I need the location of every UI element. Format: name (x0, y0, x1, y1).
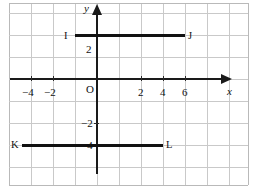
x-tick-label-4: 4 (160, 87, 166, 98)
x-tick--4 (31, 76, 32, 81)
x-tick--2 (53, 76, 54, 81)
segment-IJ (75, 34, 185, 37)
grid-line-horizontal (9, 57, 248, 58)
grid-line-vertical (75, 3, 76, 185)
grid-line-horizontal (9, 167, 248, 168)
x-tick-label--4: −4 (22, 87, 34, 98)
y-tick--2 (94, 123, 99, 124)
grid-line-vertical (248, 3, 249, 185)
grid-line-horizontal (9, 13, 248, 14)
grid-line-vertical (9, 3, 10, 185)
point-label-I: I (64, 31, 68, 42)
grid-line-horizontal (9, 101, 248, 102)
x-tick-label--2: −2 (44, 87, 56, 98)
x-axis (10, 78, 222, 80)
x-tick-label-6: 6 (182, 87, 188, 98)
point-label-L: L (166, 140, 172, 151)
y-axis-label: y (84, 3, 89, 14)
grid-line-vertical (207, 3, 208, 185)
y-tick-label-2: 2 (86, 44, 92, 55)
grid-line-horizontal (9, 185, 248, 186)
x-tick-6 (185, 76, 186, 81)
origin-label: O (86, 84, 94, 95)
segment-KL (22, 144, 163, 147)
x-axis-arrow-icon (221, 74, 232, 84)
x-axis-label: x (227, 86, 232, 97)
grid-line-horizontal (9, 3, 248, 4)
y-tick-label--2: −2 (81, 118, 93, 129)
grid-line-vertical (119, 3, 120, 185)
grid-line-horizontal (9, 123, 248, 124)
y-axis (96, 14, 98, 174)
y-axis-arrow-icon (92, 4, 102, 15)
x-tick-label-2: 2 (138, 87, 144, 98)
x-tick-4 (163, 76, 164, 81)
coordinate-plane-figure: x y −4 −2 2 4 6 2 −2 −4 O I J K L (0, 0, 254, 188)
point-label-K: K (11, 140, 19, 151)
x-tick-2 (141, 76, 142, 81)
point-label-J: J (188, 31, 192, 42)
